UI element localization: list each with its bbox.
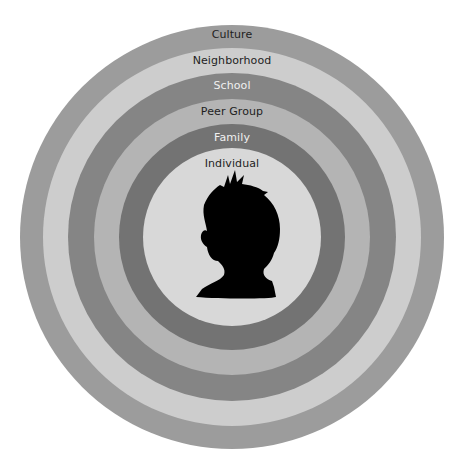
label-family: Family xyxy=(0,131,460,145)
child-head-silhouette-icon xyxy=(180,165,290,305)
label-peer-group: Peer Group xyxy=(0,105,460,119)
label-culture: Culture xyxy=(0,28,460,42)
label-school: School xyxy=(0,79,460,93)
label-neighborhood: Neighborhood xyxy=(0,54,460,68)
